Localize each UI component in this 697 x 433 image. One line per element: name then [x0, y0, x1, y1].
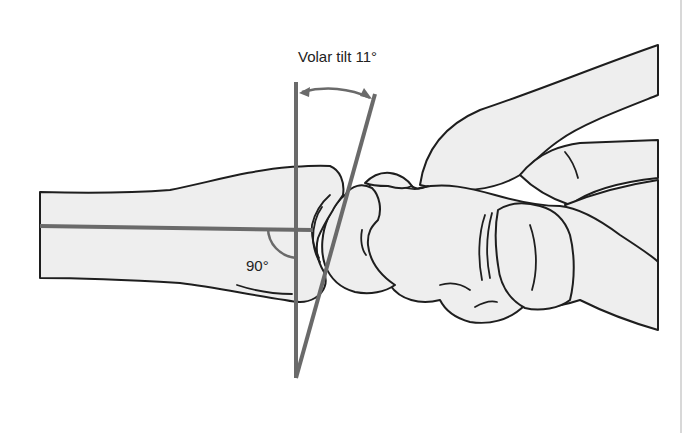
volar-tilt-arrow: [299, 87, 372, 99]
volar-tilt-label: Volar tilt 11°: [298, 48, 377, 65]
arrowhead-left-icon: [299, 87, 310, 97]
arrowhead-right-icon: [360, 88, 372, 99]
right-angle-label: 90°: [246, 257, 269, 274]
